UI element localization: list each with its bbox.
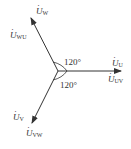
angle-label-upper: 120° — [64, 58, 81, 67]
phasor-v-arrow — [32, 71, 58, 123]
label-u-v: UV — [13, 113, 24, 122]
label-u-wu: UWU — [10, 31, 27, 40]
label-u-w: UW — [36, 7, 48, 16]
angle-arc-lower — [53, 71, 67, 80]
label-u-uv: UUV — [108, 75, 123, 84]
phasor-w-arrow — [31, 18, 58, 71]
label-u-u: UU — [112, 59, 123, 68]
label-u-vw: UVW — [26, 129, 43, 138]
angle-label-lower: 120° — [60, 81, 77, 90]
